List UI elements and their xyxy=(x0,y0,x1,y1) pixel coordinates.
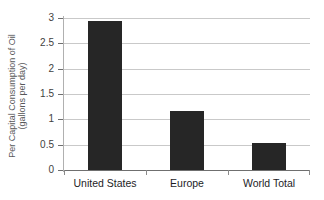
x-axis-label-world-total: World Total xyxy=(243,177,295,189)
x-tick-mark-3 xyxy=(309,170,310,175)
x-axis-label-united-states: United States xyxy=(73,177,136,189)
gridline-3 xyxy=(64,18,310,19)
x-tick-mark-0 xyxy=(64,170,65,175)
y-tick-label-5: 2.5 xyxy=(14,38,54,48)
bar-world-total xyxy=(252,143,286,170)
y-tick-label-0: 0 xyxy=(14,165,54,175)
y-tick-label-1: 0.5 xyxy=(14,140,54,150)
y-tick-label-6: 3 xyxy=(14,13,54,23)
y-tick-label-2: 1 xyxy=(14,114,54,124)
y-axis-line xyxy=(63,16,64,172)
x-tick-mark-1 xyxy=(146,170,147,175)
y-tick-label-4: 2 xyxy=(14,64,54,74)
y-tick-label-3: 1.5 xyxy=(14,89,54,99)
bar-united-states xyxy=(88,21,122,170)
bar-europe xyxy=(170,111,204,170)
x-axis-label-europe: Europe xyxy=(170,177,204,189)
x-axis-line xyxy=(64,170,310,171)
plot-area xyxy=(64,18,310,170)
bar-chart: Per Capital Consumption of Oil (gallons … xyxy=(0,0,324,200)
x-tick-mark-2 xyxy=(228,170,229,175)
